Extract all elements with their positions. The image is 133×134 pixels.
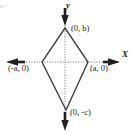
corner-note: c: (0, 3, 5, 10)
vertex-label-top: (0, b) (71, 24, 89, 33)
y-axis-label: y (66, 1, 70, 10)
geometry-figure: c: (0, b) (a, 0) (0, -c) (-a, 0) X y (0, 0, 133, 134)
vertex-label-left: (-a, 0) (8, 64, 29, 73)
vertex-label-bottom: (0, -c) (70, 108, 91, 117)
vertex-label-right: (a, 0) (90, 64, 108, 73)
kite-shape (42, 28, 88, 110)
x-axis-label: X (122, 50, 128, 59)
y-axis-bottom-arrow-stem (64, 112, 67, 122)
